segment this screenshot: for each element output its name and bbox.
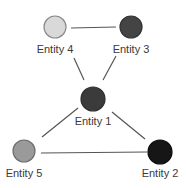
node-e4[interactable]: Entity 4: [37, 16, 74, 55]
node-circle-icon[interactable]: [44, 16, 66, 38]
node-e1[interactable]: Entity 1: [75, 87, 112, 127]
node-label: Entity 5: [6, 167, 43, 179]
node-circle-icon[interactable]: [81, 87, 105, 111]
node-label: Entity 2: [142, 167, 179, 179]
nodes-layer: Entity 4Entity 3Entity 1Entity 5Entity 2: [6, 16, 179, 179]
node-label: Entity 3: [113, 43, 150, 55]
node-circle-icon[interactable]: [148, 140, 172, 164]
node-circle-icon[interactable]: [120, 16, 142, 38]
node-label: Entity 4: [37, 43, 74, 55]
node-circle-icon[interactable]: [13, 140, 35, 162]
edge-e4-e3: [71, 27, 116, 28]
node-e3[interactable]: Entity 3: [113, 16, 150, 55]
node-e5[interactable]: Entity 5: [6, 140, 43, 179]
edge-e4-e1: [74, 58, 84, 80]
network-diagram: Entity 4Entity 3Entity 1Entity 5Entity 2: [0, 0, 186, 188]
edge-e1-e5: [42, 108, 78, 137]
edge-e5-e2: [41, 152, 147, 153]
edge-e1-e2: [112, 112, 145, 139]
node-label: Entity 1: [75, 115, 112, 127]
node-e2[interactable]: Entity 2: [142, 140, 179, 179]
edge-e3-e1: [103, 56, 116, 80]
